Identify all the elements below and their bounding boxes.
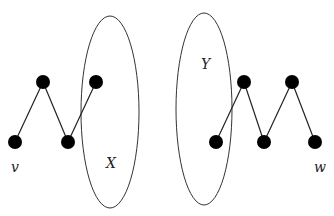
node [257,135,271,149]
edges [15,82,315,142]
graph-diagram: v X Y w [0,0,334,216]
node-w [308,135,322,149]
node [89,75,103,89]
node [237,75,251,89]
node-v [8,135,22,149]
node [36,75,50,89]
label-v: v [11,159,19,175]
label-x: X [105,155,117,171]
node [61,135,75,149]
label-y: Y [201,56,212,72]
set-y-ellipse [176,13,232,205]
label-w: w [314,159,326,175]
set-x-ellipse [81,16,139,208]
node [209,135,223,149]
node [285,75,299,89]
